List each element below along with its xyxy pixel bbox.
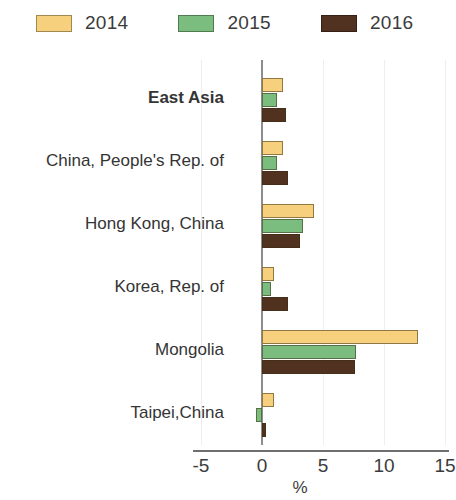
legend-swatch-2016 [321, 15, 357, 32]
bar-2015-4[interactable] [262, 345, 356, 359]
legend-item-2015[interactable]: 2015 [178, 12, 270, 34]
bar-2014-5[interactable] [262, 393, 274, 407]
legend-swatch-2015 [178, 15, 214, 32]
bar-group [0, 66, 453, 129]
bar-2016-5[interactable] [262, 423, 266, 437]
plot-area: East AsiaChina, People's Rep. ofHong Kon… [0, 60, 453, 450]
bar-2014-0[interactable] [262, 78, 283, 92]
bar-2015-1[interactable] [262, 156, 277, 170]
legend-label: 2014 [85, 12, 128, 34]
bar-2014-2[interactable] [262, 204, 314, 218]
bar-2015-5[interactable] [256, 408, 262, 422]
bar-2016-2[interactable] [262, 234, 300, 248]
chart-row: Korea, Rep. of [0, 255, 453, 318]
bar-2016-0[interactable] [262, 108, 286, 122]
legend-label: 2015 [227, 12, 270, 34]
chart-legend: 201420152016 [0, 0, 453, 46]
bar-group [0, 318, 453, 381]
x-tick-label-0: -5 [193, 455, 210, 477]
bar-group [0, 192, 453, 255]
chart-row: Taipei,China [0, 381, 453, 444]
bar-2014-1[interactable] [262, 141, 283, 155]
x-tick-label-2: 5 [318, 455, 329, 477]
x-tick-label-4: 15 [434, 455, 455, 477]
chart-row: China, People's Rep. of [0, 129, 453, 192]
bar-group [0, 381, 453, 444]
bar-2015-2[interactable] [262, 219, 303, 233]
bar-group [0, 129, 453, 192]
bar-2015-3[interactable] [262, 282, 271, 296]
legend-label: 2016 [370, 12, 413, 34]
legend-item-2016[interactable]: 2016 [321, 12, 413, 34]
chart-row: Hong Kong, China [0, 192, 453, 255]
bar-2015-0[interactable] [262, 93, 277, 107]
legend-swatch-2014 [36, 15, 72, 32]
bar-2016-1[interactable] [262, 171, 288, 185]
bar-2014-3[interactable] [262, 267, 274, 281]
bar-2016-4[interactable] [262, 360, 355, 374]
x-tick-label-1: 0 [257, 455, 268, 477]
chart-row: Mongolia [0, 318, 453, 381]
bar-group [0, 255, 453, 318]
x-axis-line [193, 450, 449, 452]
x-axis-title: % [292, 478, 307, 498]
bar-2014-4[interactable] [262, 330, 418, 344]
legend-item-2014[interactable]: 2014 [36, 12, 128, 34]
x-tick-label-3: 10 [373, 455, 394, 477]
bar-2016-3[interactable] [262, 297, 288, 311]
chart-row: East Asia [0, 66, 453, 129]
